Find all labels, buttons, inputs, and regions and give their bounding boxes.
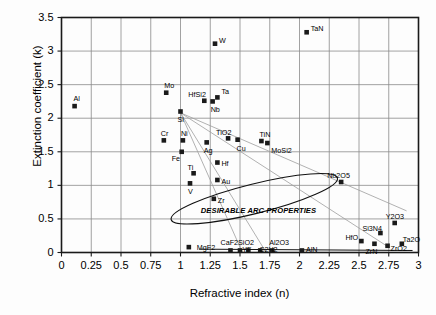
data-point-label: V xyxy=(188,188,193,196)
data-point xyxy=(372,241,377,246)
data-point xyxy=(259,139,264,144)
data-point-label: Y2O3 xyxy=(386,213,404,221)
data-point xyxy=(178,109,183,114)
data-point-label: Hf xyxy=(221,160,228,168)
data-point-label: Si3N4 xyxy=(362,225,382,233)
data-point-label: Al xyxy=(74,95,80,103)
data-point xyxy=(235,137,240,142)
data-point xyxy=(202,98,207,103)
data-point xyxy=(179,149,184,154)
data-point-label: CaF2 xyxy=(220,239,238,247)
data-point-label: Au xyxy=(221,178,230,186)
data-point-label: Mo xyxy=(164,82,174,90)
data-point xyxy=(385,243,390,248)
data-point xyxy=(265,141,270,146)
data-point-label: Ni xyxy=(181,130,188,138)
data-point-label: Nb2O5 xyxy=(327,172,350,180)
data-point-label: W xyxy=(219,37,226,45)
data-point-label: Ta2O xyxy=(403,236,420,244)
data-point xyxy=(304,30,309,35)
data-point-label: HfSi2 xyxy=(188,91,206,99)
tick-marks xyxy=(58,18,419,257)
data-point-label: C2H2 xyxy=(259,246,277,254)
data-point xyxy=(210,99,215,104)
data-point xyxy=(181,138,186,143)
region-annotation: DESIRABLE ARC PROPERTIES xyxy=(201,206,316,215)
data-point xyxy=(164,90,169,95)
data-point-label: MoSi2 xyxy=(271,147,291,155)
data-point xyxy=(228,248,233,253)
data-point xyxy=(204,140,209,145)
data-point-label: Nb xyxy=(211,106,220,114)
data-point-label: Zr xyxy=(218,197,225,205)
data-point-label: Cu xyxy=(237,145,246,153)
data-point-label: Fe xyxy=(172,155,180,163)
data-point-label: Si xyxy=(178,116,184,124)
data-point-label: ZrN xyxy=(365,248,377,256)
data-point xyxy=(215,178,220,183)
data-point-label: TiO2 xyxy=(216,129,231,137)
data-point xyxy=(162,138,167,143)
data-point xyxy=(359,239,364,244)
scatter-plot xyxy=(0,0,436,315)
data-point xyxy=(213,41,218,46)
data-point xyxy=(188,181,193,186)
data-point-label: Ag xyxy=(204,147,213,155)
data-point xyxy=(392,221,397,226)
data-point xyxy=(339,180,344,185)
data-markers xyxy=(72,30,404,253)
data-point-label: YF xyxy=(242,246,251,254)
data-point-label: AlN xyxy=(306,246,318,254)
data-point-label: Cr xyxy=(161,130,169,138)
data-point-label: MgF2 xyxy=(197,244,215,252)
data-point xyxy=(187,245,192,250)
chart-figure: Extinction coefficient (k) Refractive in… xyxy=(0,0,436,315)
data-point xyxy=(212,196,217,201)
data-point-label: ZrO2 xyxy=(391,245,407,253)
data-point-label: TiN xyxy=(259,131,270,139)
data-point xyxy=(215,95,220,100)
data-point xyxy=(72,104,77,109)
data-point-label: Al2O3 xyxy=(269,239,289,247)
data-point xyxy=(215,160,220,165)
data-point xyxy=(300,248,305,253)
data-point-label: TaN xyxy=(311,25,324,33)
data-point-label: Ti xyxy=(188,164,194,172)
data-point-label: Ta xyxy=(221,88,229,96)
data-point-label: HfO xyxy=(345,234,358,242)
